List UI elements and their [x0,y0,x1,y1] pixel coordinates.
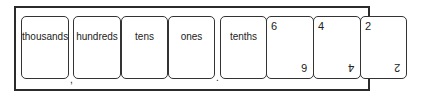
column-label: tenths [221,31,266,42]
digit-card-4[interactable]: 4 4 [313,16,361,79]
digit-card-6[interactable]: 6 6 [266,16,314,79]
column-tenths: tenths [220,16,267,79]
column-label: tens [122,31,167,42]
digit-top: 4 [318,20,324,32]
digit-bottom-rotated: 4 [348,62,354,74]
decimal-point: . [216,72,219,83]
column-label: hundreds [74,31,120,42]
digit-bottom-rotated: 6 [301,62,307,74]
column-tens: tens [121,16,168,79]
digit-top: 2 [365,20,371,32]
column-ones: ones [168,16,215,79]
column-label: thousands [22,31,68,42]
column-thousands: thousands [21,16,69,79]
digit-card-2[interactable]: 2 2 [360,16,407,79]
column-label: ones [169,31,214,42]
digit-top: 6 [271,20,277,32]
digit-bottom-rotated: 2 [394,62,400,74]
column-hundreds: hundreds [73,16,121,79]
